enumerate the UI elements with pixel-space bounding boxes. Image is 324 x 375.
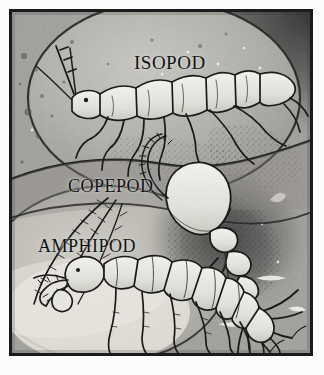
label-isopod: ISOPOD [134, 52, 206, 74]
illustration-frame: ISOPOD COPEPOD AMPHIPOD [9, 9, 313, 356]
label-copepod: COPEPOD [68, 176, 154, 197]
label-amphipod: AMPHIPOD [38, 236, 136, 257]
illustration-plate: ISOPOD COPEPOD AMPHIPOD [0, 0, 324, 375]
